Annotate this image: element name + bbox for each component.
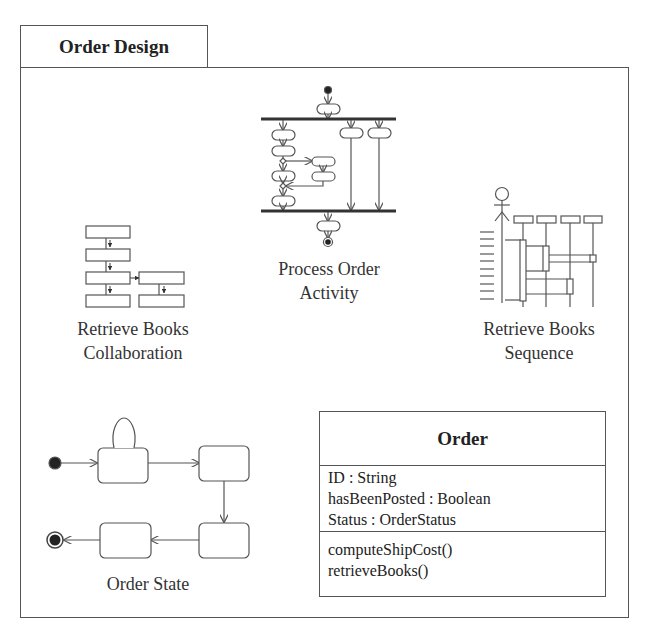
collaboration-object — [86, 295, 130, 307]
activity-diagram-icon[interactable] — [261, 87, 396, 247]
collaboration-label-line1: Retrieve Books — [33, 317, 233, 341]
activity-diagram-label[interactable]: Process Order Activity — [229, 257, 429, 305]
collaboration-object — [139, 295, 184, 307]
state-label: Order State — [48, 572, 248, 596]
state-box — [199, 446, 249, 481]
activity-node — [317, 221, 340, 231]
activity-start-node — [325, 87, 332, 94]
decision-node — [280, 158, 286, 164]
order-class-box[interactable]: Order ID : String hasBeenPosted : Boolea… — [319, 411, 606, 597]
sequence-object — [561, 216, 580, 223]
state-diagram-icon[interactable] — [47, 418, 249, 558]
activity-node — [317, 104, 340, 114]
self-transition — [113, 418, 135, 448]
sequence-diagram-label[interactable]: Retrieve Books Sequence — [439, 317, 639, 365]
sequence-label-line1: Retrieve Books — [439, 317, 639, 341]
merge-node — [280, 183, 286, 189]
collaboration-object — [86, 249, 130, 261]
actor-head — [496, 188, 509, 201]
activity-end-node-core — [325, 239, 331, 245]
collaboration-object — [86, 226, 130, 238]
activity-node — [368, 128, 391, 138]
activity-node — [312, 172, 335, 181]
collaboration-diagram-icon[interactable] — [86, 226, 184, 307]
activity-node — [272, 171, 295, 181]
class-name: Order — [320, 412, 605, 466]
activity-node — [272, 130, 295, 140]
activation-bar — [590, 255, 596, 262]
sequence-object — [514, 216, 533, 223]
collaboration-object — [139, 272, 184, 284]
activity-label-line2: Activity — [229, 281, 429, 305]
activation-bar — [520, 240, 526, 301]
sequence-object — [584, 216, 602, 223]
activation-bar — [543, 246, 549, 271]
class-attribute: hasBeenPosted : Boolean — [328, 488, 605, 509]
class-attribute: Status : OrderStatus — [328, 509, 605, 530]
state-box — [199, 523, 249, 558]
class-operation: retrieveBooks() — [328, 560, 605, 581]
sequence-script-lines — [480, 232, 494, 299]
class-operation: computeShipCost() — [328, 539, 605, 560]
sequence-label-line2: Sequence — [439, 341, 639, 365]
collaboration-diagram-label[interactable]: Retrieve Books Collaboration — [33, 317, 233, 365]
sequence-diagram-icon[interactable] — [480, 188, 602, 308]
sequence-object — [537, 216, 556, 223]
state-final-node-core — [50, 535, 61, 546]
activity-node — [312, 157, 335, 166]
activity-flow — [286, 181, 323, 186]
state-initial-node — [49, 457, 61, 469]
state-diagram-label[interactable]: Order State — [48, 572, 248, 596]
activity-node — [272, 196, 295, 206]
activity-node — [272, 146, 295, 156]
class-operations: computeShipCost() retrieveBooks() — [320, 532, 605, 581]
state-box — [100, 523, 151, 558]
class-attributes: ID : String hasBeenPosted : Boolean Stat… — [320, 466, 605, 532]
collaboration-object — [86, 272, 130, 284]
collaboration-label-line2: Collaboration — [33, 341, 233, 365]
activity-label-line1: Process Order — [229, 257, 429, 281]
activation-bar — [567, 279, 573, 294]
state-box — [98, 448, 148, 483]
class-attribute: ID : String — [328, 467, 605, 488]
activity-node — [340, 128, 363, 138]
